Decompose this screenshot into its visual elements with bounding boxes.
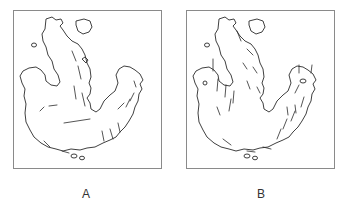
- map-panel-a: [13, 10, 162, 169]
- map-b-drawing: [187, 11, 334, 168]
- map-a-drawing: [14, 11, 161, 168]
- coastline-a: [20, 17, 143, 160]
- flow-vectors-a: [40, 51, 136, 153]
- map-panel-b: [186, 10, 335, 169]
- panel-label-a: A: [76, 187, 96, 201]
- flow-vectors-b: [213, 31, 312, 152]
- panel-label-b: B: [251, 187, 271, 201]
